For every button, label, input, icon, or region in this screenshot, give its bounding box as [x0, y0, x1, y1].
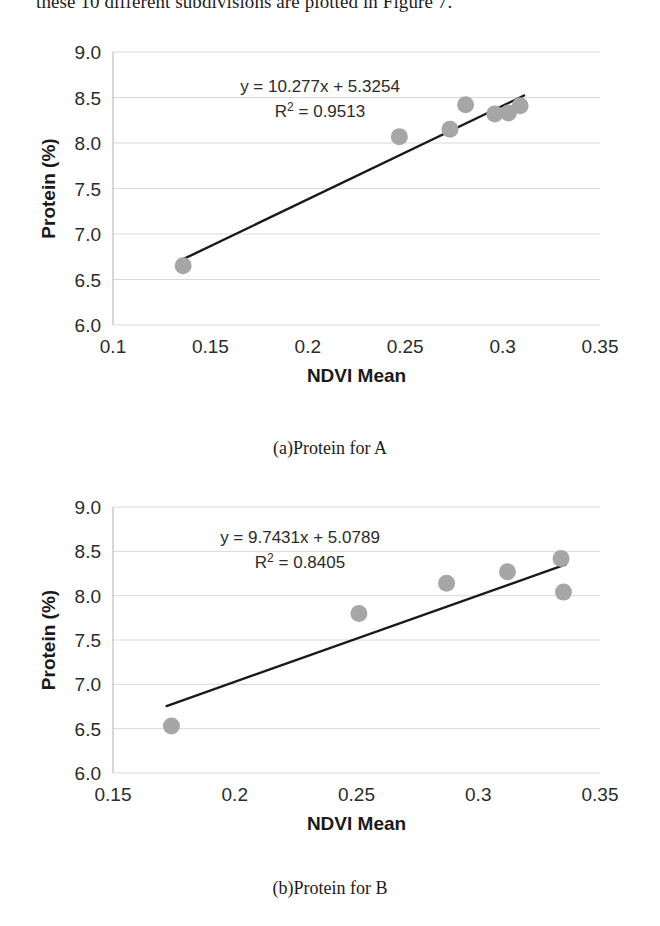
x-axis-title: NDVI Mean	[307, 365, 406, 386]
figure-a: 6.06.57.07.58.08.59.00.10.150.20.250.30.…	[0, 30, 660, 460]
y-tick-label: 9.0	[75, 497, 101, 518]
y-tick-label: 7.0	[75, 674, 101, 695]
data-point	[175, 257, 192, 274]
y-tick-label: 6.0	[75, 763, 101, 784]
y-tick-label: 8.0	[75, 133, 101, 154]
y-tick-label: 8.0	[75, 586, 101, 607]
trendline-equation-label: y = 9.7431x + 5.0789	[220, 528, 380, 547]
data-point	[457, 96, 474, 113]
y-tick-label: 7.5	[75, 179, 101, 200]
x-tick-label: 0.2	[295, 336, 321, 357]
data-point	[391, 128, 408, 145]
page-body-text: these 10 different subdivisions are plot…	[36, 0, 636, 13]
y-axis-title: Protein (%)	[38, 590, 59, 690]
x-axis-title: NDVI Mean	[307, 813, 406, 834]
y-tick-label: 7.0	[75, 224, 101, 245]
x-tick-label: 0.1	[100, 336, 126, 357]
y-tick-label: 6.5	[75, 719, 101, 740]
x-tick-label: 0.3	[489, 336, 515, 357]
x-tick-label: 0.2	[222, 784, 248, 805]
x-tick-label: 0.15	[95, 784, 132, 805]
r-squared-label: R2 = 0.9513	[275, 100, 365, 121]
y-tick-label: 7.5	[75, 630, 101, 651]
figure-b: 6.06.57.07.58.08.59.00.150.20.250.30.35P…	[0, 485, 660, 920]
x-tick-label: 0.25	[387, 336, 424, 357]
r-squared-label: R2 = 0.8405	[255, 551, 345, 572]
data-point	[163, 718, 180, 735]
y-tick-label: 8.5	[75, 88, 101, 109]
x-tick-label: 0.25	[338, 784, 375, 805]
chart-protein-for-a: 6.06.57.07.58.08.59.00.10.150.20.250.30.…	[0, 30, 660, 420]
data-point	[555, 584, 572, 601]
x-tick-label: 0.15	[192, 336, 229, 357]
chart-a-canvas: 6.06.57.07.58.08.59.00.10.150.20.250.30.…	[0, 30, 660, 420]
data-point	[350, 605, 367, 622]
x-tick-label: 0.35	[582, 784, 619, 805]
figure-b-caption: (b)Protein for B	[0, 878, 660, 899]
data-point	[553, 550, 570, 567]
chart-b-canvas: 6.06.57.07.58.08.59.00.150.20.250.30.35P…	[0, 485, 660, 875]
data-point	[442, 121, 459, 138]
figure-a-caption: (a)Protein for A	[0, 438, 660, 459]
y-tick-label: 6.5	[75, 270, 101, 291]
x-tick-label: 0.3	[465, 784, 491, 805]
x-tick-label: 0.35	[582, 336, 619, 357]
y-axis-title: Protein (%)	[38, 138, 59, 238]
data-point	[512, 97, 529, 114]
y-tick-label: 6.0	[75, 315, 101, 336]
data-point	[499, 563, 516, 580]
data-point	[438, 575, 455, 592]
y-tick-label: 9.0	[75, 42, 101, 63]
chart-protein-for-b: 6.06.57.07.58.08.59.00.150.20.250.30.35P…	[0, 485, 660, 875]
y-tick-label: 8.5	[75, 541, 101, 562]
trendline-equation-label: y = 10.277x + 5.3254	[240, 77, 400, 96]
